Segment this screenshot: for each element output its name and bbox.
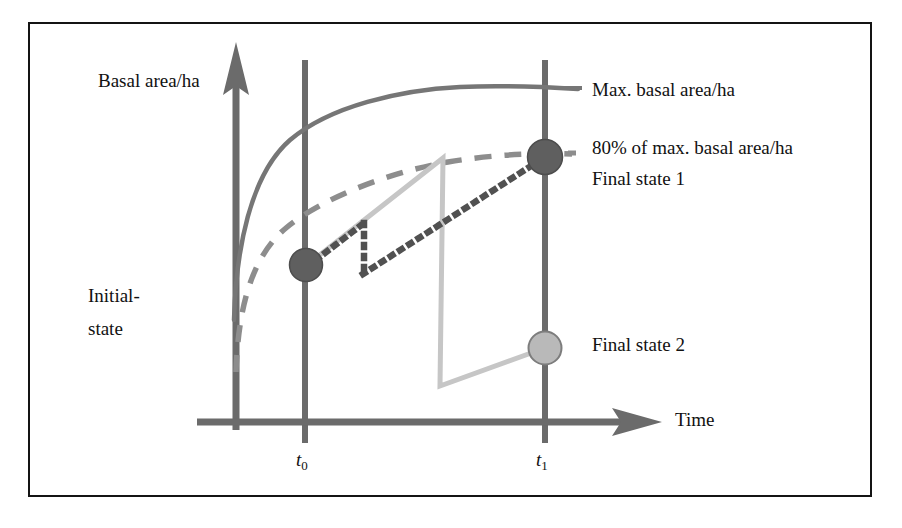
final-state-2-node xyxy=(529,332,562,365)
max-basal-area-label: Max. basal area/ha xyxy=(592,79,735,101)
initial-state-label-line1: Initial- xyxy=(88,285,140,307)
y-axis-label: Basal area/ha xyxy=(98,70,200,92)
figure-container: Basal area/ha Initial- state Time Max. b… xyxy=(0,0,902,528)
max-basal-area-curve xyxy=(234,86,578,320)
tick-label-t0: t0 xyxy=(296,449,308,471)
initial-state-node xyxy=(290,249,323,282)
tick-label-t0-sub: 0 xyxy=(301,458,308,473)
initial-state-label-line2: state xyxy=(88,318,123,340)
tick-label-t1-sub: 1 xyxy=(541,458,548,473)
final-state-1-node xyxy=(528,140,563,175)
tick-label-t1: t1 xyxy=(536,449,548,471)
x-axis-label: Time xyxy=(675,409,714,431)
eighty-percent-label: 80% of max. basal area/ha xyxy=(592,137,793,159)
final-state-1-label: Final state 1 xyxy=(592,168,685,190)
final-state-2-label: Final state 2 xyxy=(592,334,685,356)
